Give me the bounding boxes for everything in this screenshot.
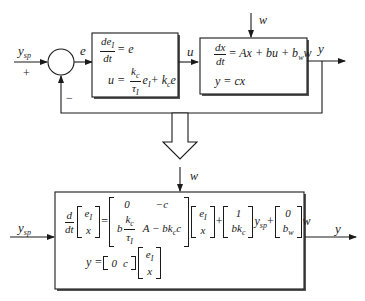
summing-junction bbox=[48, 49, 74, 75]
plant-state-equation: dxdt= Ax + bu + bww bbox=[212, 42, 311, 67]
error-label: e bbox=[80, 44, 86, 57]
ysp-input-label: ysp bbox=[18, 44, 31, 60]
controller-integral-equation: deIdt= e bbox=[98, 36, 134, 64]
minus-sign: − bbox=[66, 92, 73, 104]
closed-loop-b-vector: 1bkc bbox=[223, 206, 253, 238]
plant-output-equation: y = cx bbox=[215, 75, 245, 87]
bottom-disturbance-label: w bbox=[190, 170, 198, 182]
output-state-vector: eIx bbox=[138, 247, 162, 279]
disturbance-vector: 0bw bbox=[275, 206, 302, 238]
output-label: y bbox=[318, 42, 324, 55]
hollow-down-arrow bbox=[163, 113, 197, 159]
disturbance-label: w bbox=[259, 14, 267, 26]
bottom-ysp-label: ysp bbox=[18, 221, 31, 237]
bottom-output-label: y bbox=[335, 222, 341, 235]
controller-output-equation: u = kcτIeI+ kce bbox=[108, 66, 176, 97]
control-signal-label: u bbox=[187, 45, 194, 58]
closed-loop-a-matrix: 0−c bkcτIA − bkcc bbox=[109, 197, 189, 247]
plus-sign: + bbox=[23, 67, 30, 79]
closed-loop-output-equation: y =0ceIx bbox=[86, 247, 162, 279]
state-vector: eIx bbox=[77, 206, 101, 238]
state-vector-2: eIx bbox=[191, 206, 215, 238]
closed-loop-state-equation: ddteIx= 0−c bkcτIA − bkcc eIx+1bkcysp+0b… bbox=[63, 197, 311, 247]
output-c-row: 0c bbox=[103, 256, 135, 271]
